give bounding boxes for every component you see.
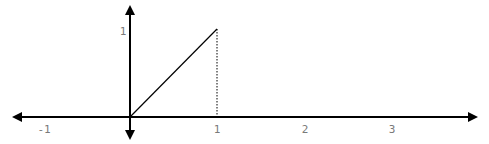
x-tick-label-neg1: -1 (37, 123, 50, 136)
y-tick-label-1: 1 (120, 25, 127, 38)
ramp-function-chart: -1 1 2 3 1 (0, 0, 489, 144)
x-tick-label-1: 1 (214, 123, 221, 136)
x-tick-label-2: 2 (302, 123, 309, 136)
ramp-line (130, 29, 217, 117)
x-tick-label-3: 3 (389, 123, 396, 136)
